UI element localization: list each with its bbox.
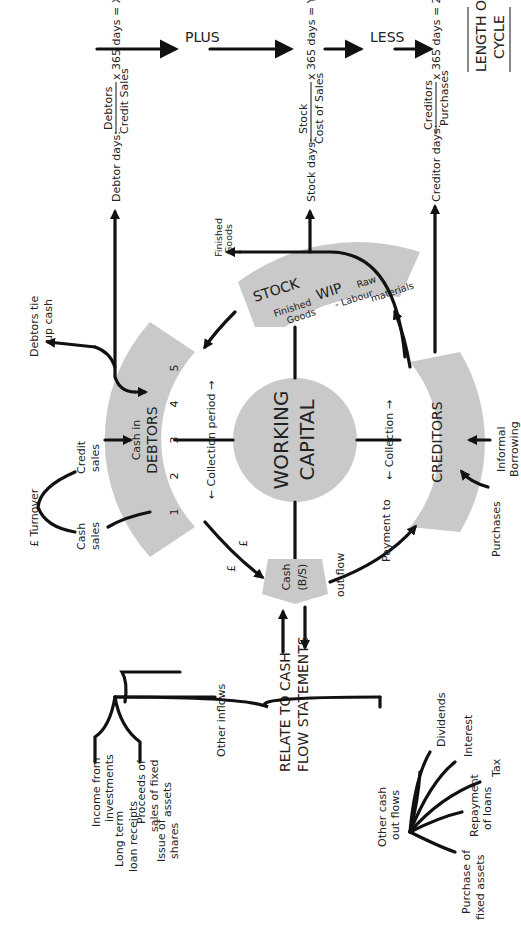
cash-line2: (B/S) (296, 564, 309, 591)
debtor-numerator: Debtors (102, 86, 115, 130)
creditors-collection: ← Collection → (383, 400, 396, 480)
less-operator: LESS (370, 29, 405, 45)
cash-sales-1: Cash (75, 523, 88, 550)
debtors-tie-arrow (48, 342, 95, 347)
inflow-branch-proceeds (115, 697, 140, 762)
outflow-dividends-label: Dividends (435, 692, 448, 747)
cash-flow-statements-title: RELATE TO CASH FLOW STATEMENTS (277, 636, 311, 772)
outflow-purchase-1: Purchase of (460, 849, 473, 914)
inflow-loan-1: Long term (113, 811, 126, 867)
period-1: 1 (168, 509, 181, 516)
cycle-label: CYCLE (491, 15, 507, 59)
purchases-label: Purchases (490, 501, 503, 557)
inflow-income-1: Income from (90, 757, 103, 827)
debtors-title: DEBTORS (144, 406, 160, 474)
inflow-shares-2: shares (168, 823, 181, 859)
outflow-repayment-1: Repayment (468, 773, 481, 837)
creditor-days-formula: Creditor days: Creditors Purchases x 365… (422, 0, 451, 202)
debtors-collection-period: ← Collection period → (205, 381, 218, 499)
outflow-interest-label: Interest (462, 714, 475, 757)
cash-line1: Cash (280, 563, 293, 590)
turnover-label: £ Turnover (28, 488, 41, 547)
other-outflows-1: Other cash (376, 787, 389, 847)
outflow-purchase (410, 832, 455, 852)
cash-flow-title-1: RELATE TO CASH (277, 652, 293, 772)
credit-sales-1: Credit (75, 440, 88, 474)
stock-days-label: Stock days: (305, 138, 318, 202)
stock-denominator: Cost of Sales (313, 72, 326, 144)
period-3: 3 (168, 437, 181, 444)
stock-days-formula: Stock days: Stock Cost of Sales x 365 da… (297, 0, 326, 202)
period-5: 5 (168, 365, 181, 372)
credit-sales-2: sales (89, 444, 102, 472)
creditor-result: x 365 days = Z days (430, 0, 443, 80)
turnover-brace (38, 472, 75, 532)
debtors-line1: Cash in (130, 420, 143, 461)
working-capital-line2: CAPITAL (295, 399, 319, 481)
other-inflows-label: Other inflows (215, 684, 228, 757)
inflow-loan-2: loan receipts (127, 801, 140, 872)
working-capital-node: WORKING CAPITAL (233, 378, 357, 502)
informal-label-1: Informal (495, 426, 508, 472)
length-of-cycle: LENGTH OF CYCLE (468, 0, 510, 72)
plus-operator: PLUS (185, 29, 220, 45)
working-capital-line1: WORKING (269, 391, 293, 490)
creditors-title: CREDITORS (429, 401, 445, 483)
cash-flow-title-2: FLOW STATEMENTS (295, 636, 311, 772)
debtor-days-label: Debtor days: (110, 131, 123, 202)
length-of-label: LENGTH OF (473, 0, 489, 72)
other-outflows-2: out flows (389, 790, 402, 840)
debtors-tie-1: Debtors tie (28, 296, 41, 357)
outflow-tax-label: Tax (490, 758, 503, 778)
stock-numerator: Stock (297, 103, 310, 134)
finished-goods-out-2: Goods (223, 224, 234, 254)
out-flow-label: out flow (334, 553, 347, 597)
period-2: 2 (168, 473, 181, 480)
stock-to-debtors-arrow (205, 312, 235, 347)
pound-sign-2: £ (225, 565, 238, 572)
inflow-shares-1: Issue of (155, 818, 168, 862)
debtors-tie-2: up cash (42, 299, 55, 342)
stock-result: x 365 days = Y days (305, 0, 318, 80)
creditor-numerator: Creditors (422, 80, 435, 130)
working-capital-cycle-diagram: WORKING CAPITAL Cash in DEBTORS 1 2 3 4 … (0, 0, 521, 952)
debtor-result: x 365 days = X days (110, 0, 123, 80)
cash-sales-2: sales (89, 522, 102, 550)
outflow-purchase-2: fixed assets (474, 854, 487, 920)
creditors-node: CREDITORS ← Collection → (383, 352, 485, 532)
debtor-days-formula: Debtor days: Debtors Credit Sales x 365 … (102, 0, 131, 202)
inflow-proceeds-3: assets (161, 782, 174, 817)
payment-to-label: Payment to (380, 499, 393, 562)
period-4: 4 (168, 401, 181, 408)
inflow-branch-income (95, 697, 115, 762)
creditor-days-label: Creditor days: (430, 125, 443, 203)
stock-node: STOCK Finished Goods WIP - Labour Raw ma… (238, 242, 420, 327)
cash-bs-node: Cash (B/S) (262, 559, 328, 604)
informal-label-2: Borrowing (508, 421, 521, 477)
pound-sign-1: £ (237, 540, 250, 547)
outflow-repayment-2: of loans (481, 786, 494, 830)
